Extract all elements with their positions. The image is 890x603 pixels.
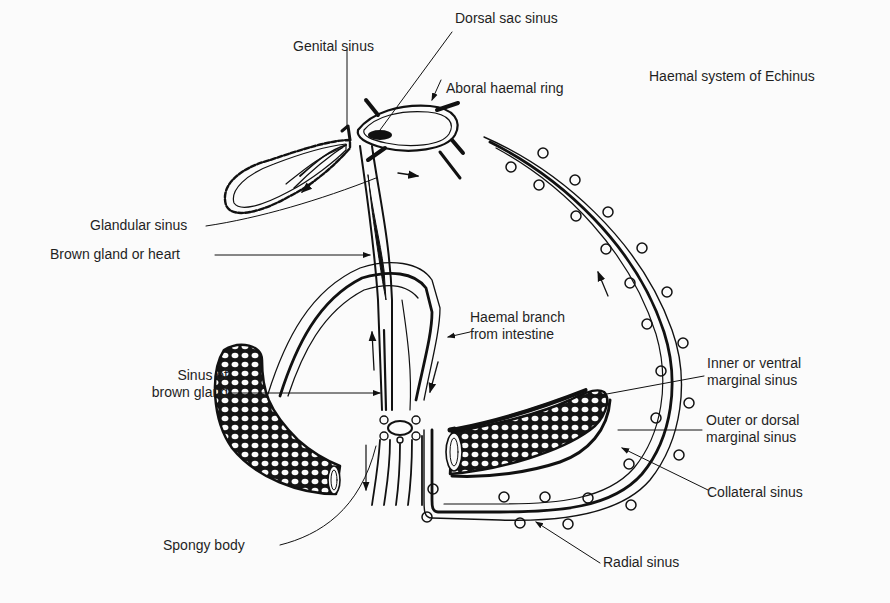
label-glandular-sinus: Glandular sinus	[90, 217, 187, 234]
label-outer-dorsal-marginal-sinus: Outer or dorsal marginal sinus	[706, 412, 799, 446]
aboral-haemal-ring	[358, 100, 463, 178]
label-genital-sinus: Genital sinus	[293, 38, 374, 55]
intestinal-vessel-arch	[268, 263, 440, 410]
label-radial-sinus: Radial sinus	[603, 554, 679, 571]
label-dorsal-sac-sinus: Dorsal sac sinus	[455, 10, 558, 27]
label-spongy-body: Spongy body	[163, 537, 245, 554]
haemal-system-diagram	[0, 0, 890, 603]
gonad-with-genital-sinus	[225, 126, 350, 213]
label-collateral-sinus: Collateral sinus	[707, 484, 803, 501]
label-inner-ventral-marginal-sinus: Inner or ventral marginal sinus	[707, 355, 801, 389]
label-sinus-of-brown-gland: Sinus of brown gland	[106, 367, 228, 401]
label-aboral-haemal-ring: Aboral haemal ring	[446, 80, 564, 97]
label-haemal-branch: Haemal branch from intestine	[470, 309, 565, 343]
right-intestine-spongy-segment	[446, 386, 610, 476]
diagram-title: Haemal system of Echinus	[649, 68, 815, 85]
label-brown-gland-or-heart: Brown gland or heart	[50, 246, 180, 263]
spongy-body	[366, 416, 422, 505]
